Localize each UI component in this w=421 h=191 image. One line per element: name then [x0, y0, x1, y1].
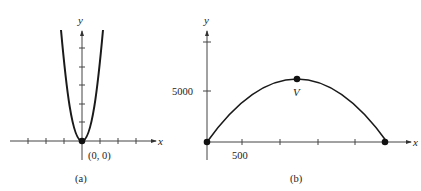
panel-a-caption: (a) — [75, 173, 87, 185]
panel-b-origin-point — [204, 139, 211, 146]
panel-b-y-tick-label: 5000 — [172, 86, 193, 97]
panel-b-vertex-point — [294, 76, 301, 83]
panel-b-x-tick-label: 500 — [232, 150, 248, 161]
panel-a: y x (0, 0) (a) — [10, 14, 163, 185]
panel-b: y x 5000 500 V (b) — [172, 14, 418, 185]
panel-a-x-label: x — [157, 135, 163, 147]
panel-a-origin-point — [79, 138, 86, 145]
panel-a-y-label: y — [77, 14, 83, 26]
panel-b-x-label: x — [412, 136, 418, 148]
panel-b-x-intercept-point — [382, 139, 389, 146]
panel-b-y-label: y — [203, 14, 209, 26]
panel-b-caption: (b) — [290, 173, 303, 185]
panel-b-vertex-label: V — [293, 86, 301, 98]
panel-a-origin-label: (0, 0) — [88, 150, 111, 162]
figure-canvas: y x (0, 0) (a) y x 5000 500 V — [0, 0, 421, 191]
